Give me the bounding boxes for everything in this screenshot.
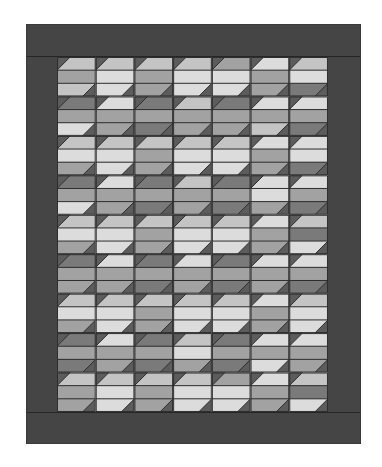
quilt-block: [289, 136, 328, 175]
strip-middle: [251, 307, 290, 320]
quilt-block: [212, 254, 251, 293]
strip-middle: [289, 307, 328, 320]
strip-middle: [212, 110, 251, 123]
quilt-block: [96, 373, 135, 412]
strip-middle: [289, 267, 328, 280]
strip-middle: [173, 149, 212, 162]
strip-middle: [134, 149, 173, 162]
strip-middle: [57, 346, 96, 359]
strip-middle: [96, 386, 135, 399]
quilt-block: [289, 294, 328, 333]
quilt-block: [212, 96, 251, 135]
strip-middle: [212, 307, 251, 320]
quilt-block: [134, 57, 173, 96]
strip-middle: [96, 267, 135, 280]
quilt-block: [289, 333, 328, 372]
strip-middle: [212, 149, 251, 162]
quilt-block: [251, 57, 290, 96]
strip-middle: [57, 110, 96, 123]
quilt-block: [173, 215, 212, 254]
quilt-block: [96, 333, 135, 372]
quilt-block: [57, 96, 96, 135]
quilt-block: [251, 215, 290, 254]
quilt-block: [251, 373, 290, 412]
quilt-block: [57, 215, 96, 254]
quilt-block: [96, 57, 135, 96]
quilt-block: [134, 373, 173, 412]
strip-middle: [134, 267, 173, 280]
strip-middle: [173, 386, 212, 399]
quilt-block: [173, 254, 212, 293]
quilt-block: [134, 333, 173, 372]
quilt-block: [251, 96, 290, 135]
strip-middle: [212, 70, 251, 83]
strip-middle: [173, 228, 212, 241]
quilt-block: [57, 136, 96, 175]
quilt-block: [96, 96, 135, 135]
strip-middle: [251, 110, 290, 123]
strip-middle: [134, 188, 173, 201]
quilt-block: [173, 136, 212, 175]
quilt-block: [173, 373, 212, 412]
quilt-block: [134, 175, 173, 214]
strip-middle: [96, 149, 135, 162]
strip-middle: [251, 386, 290, 399]
quilt-block: [173, 175, 212, 214]
strip-middle: [289, 386, 328, 399]
strip-middle: [289, 70, 328, 83]
quilt-block: [289, 215, 328, 254]
quilt-block: [134, 96, 173, 135]
quilt-block: [57, 175, 96, 214]
strip-middle: [134, 70, 173, 83]
strip-middle: [173, 70, 212, 83]
quilt-block: [251, 254, 290, 293]
strip-middle: [289, 228, 328, 241]
strip-middle: [173, 110, 212, 123]
quilt-block: [134, 136, 173, 175]
quilt-block: [212, 57, 251, 96]
quilt-block: [251, 333, 290, 372]
quilt-block: [251, 294, 290, 333]
strip-middle: [173, 267, 212, 280]
strip-middle: [251, 346, 290, 359]
quilt-block: [96, 215, 135, 254]
strip-middle: [57, 267, 96, 280]
quilt-block: [57, 373, 96, 412]
quilt-block: [212, 136, 251, 175]
quilt-block: [289, 57, 328, 96]
quilt-block: [251, 136, 290, 175]
strip-middle: [173, 188, 212, 201]
quilt-block: [212, 373, 251, 412]
strip-middle: [251, 188, 290, 201]
quilt-block: [289, 254, 328, 293]
strip-middle: [134, 386, 173, 399]
strip-middle: [212, 267, 251, 280]
strip-middle: [134, 110, 173, 123]
strip-middle: [96, 110, 135, 123]
strip-middle: [57, 228, 96, 241]
strip-middle: [212, 188, 251, 201]
strip-middle: [134, 307, 173, 320]
strip-middle: [173, 307, 212, 320]
quilt-blocks-canvas: [57, 57, 328, 412]
quilt-block: [173, 294, 212, 333]
strip-middle: [289, 149, 328, 162]
strip-middle: [212, 228, 251, 241]
quilt-block: [212, 175, 251, 214]
strip-middle: [251, 267, 290, 280]
strip-middle: [96, 307, 135, 320]
strip-middle: [251, 70, 290, 83]
strip-middle: [57, 386, 96, 399]
quilt-block: [96, 254, 135, 293]
strip-middle: [212, 346, 251, 359]
quilt-block: [173, 57, 212, 96]
strip-middle: [96, 188, 135, 201]
quilt-block: [134, 215, 173, 254]
strip-middle: [251, 228, 290, 241]
strip-middle: [96, 346, 135, 359]
quilt-block: [96, 136, 135, 175]
quilt-block: [134, 294, 173, 333]
quilt-block: [212, 215, 251, 254]
quilt-block: [289, 373, 328, 412]
quilt-block: [212, 333, 251, 372]
